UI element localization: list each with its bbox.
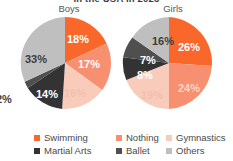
chart-legend: Swimming Nothing Gymnastics Martial Arts…	[0, 130, 233, 160]
legend-item-ballet[interactable]: Ballet	[116, 144, 150, 157]
legend-label-others: Others	[176, 145, 205, 156]
legend-swatch-ballet	[116, 148, 122, 154]
legend-item-others[interactable]: Others	[166, 144, 205, 157]
legend-swatch-nothing	[116, 135, 122, 141]
chart-figure: in the USA in 2023 Boys Girls 18% 17% 16…	[0, 0, 233, 161]
legend-swatch-gymnastics	[166, 135, 172, 141]
legend-label-gymnastics: Gymnastics	[176, 132, 226, 143]
pie-slice-girls-swimming	[169, 17, 212, 66]
legend-swatch-others	[166, 148, 172, 154]
pie-title-girls: Girls	[132, 3, 214, 14]
legend-label-swimming: Swimming	[44, 132, 88, 143]
pie-title-boys: Boys	[28, 3, 110, 14]
legend-row: Martial Arts Ballet Others	[0, 144, 233, 157]
legend-label-nothing: Nothing	[126, 132, 159, 143]
legend-row: Swimming Nothing Gymnastics	[0, 131, 233, 144]
legend-item-nothing[interactable]: Nothing	[116, 131, 159, 144]
legend-swatch-swimming	[34, 135, 40, 141]
legend-swatch-martial-arts	[34, 148, 40, 154]
legend-label-ballet: Ballet	[126, 145, 150, 156]
legend-item-martial-arts[interactable]: Martial Arts	[34, 144, 92, 157]
legend-item-gymnastics[interactable]: Gymnastics	[166, 131, 226, 144]
legend-label-martial-arts: Martial Arts	[44, 145, 92, 156]
pie-chart-boys	[18, 16, 112, 110]
legend-item-swimming[interactable]: Swimming	[34, 131, 88, 144]
pie-chart-girls	[122, 16, 216, 110]
pie-slice-girls-nothing	[169, 63, 212, 109]
pie-label-boys-ballet: 2%	[0, 94, 12, 105]
